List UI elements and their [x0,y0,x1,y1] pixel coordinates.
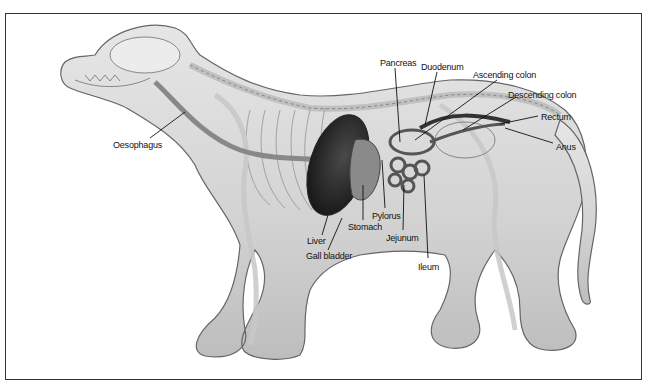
label-gall-bladder: Gall bladder [306,251,352,261]
label-duodenum: Duodenum [421,62,463,72]
label-pylorus: Pylorus [372,211,401,221]
label-ileum: Ileum [418,262,439,272]
label-oesophagus: Oesophagus [113,140,162,150]
label-liver: Liver [307,236,326,246]
label-jejunum: Jejunum [386,233,419,243]
label-anus: Anus [556,142,576,152]
label-stomach: Stomach [348,222,382,232]
dog-anatomy-illustration [0,0,648,385]
label-rectum: Rectum [541,112,571,122]
label-pancreas: Pancreas [380,58,416,68]
label-descending-colon: Descending colon [508,90,576,100]
label-ascending-colon: Ascending colon [473,70,536,80]
